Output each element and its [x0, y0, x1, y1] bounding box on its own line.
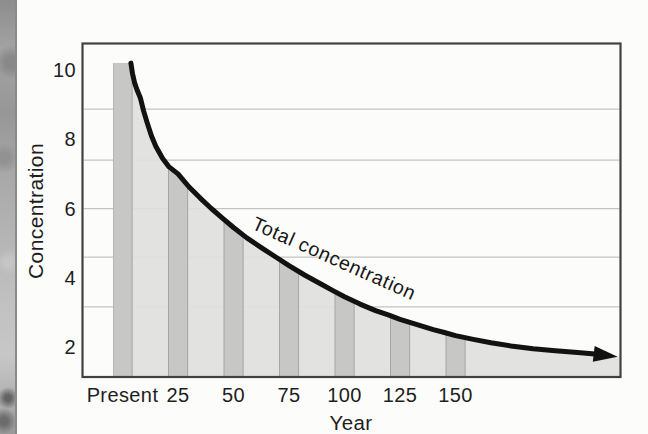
interval-bar — [280, 55, 299, 377]
interval-bar — [446, 55, 465, 377]
x-axis-title: Year — [329, 411, 372, 434]
y-tick-label: 8 — [64, 128, 76, 150]
y-tick-label: 6 — [64, 198, 76, 220]
x-tick-label: Present — [87, 384, 159, 406]
concentration-area-fill — [113, 63, 620, 377]
y-tick-label: 10 — [53, 59, 76, 81]
y-axis-title: Concentration — [24, 143, 48, 279]
scanned-book-page: 246810Present255075100125150 Concentrati… — [0, 0, 648, 434]
interval-bar — [169, 55, 188, 377]
x-tick-label: 100 — [327, 384, 362, 406]
x-tick-label: 125 — [383, 384, 418, 406]
x-tick-label: 50 — [222, 384, 245, 406]
x-tick-label: 150 — [438, 384, 473, 406]
interval-bar — [113, 55, 132, 377]
y-tick-label: 4 — [64, 267, 76, 289]
x-tick-label: 75 — [277, 384, 300, 406]
interval-bar — [391, 55, 410, 377]
y-tick-label: 2 — [64, 336, 76, 358]
interval-bar — [335, 55, 354, 377]
concentration-decay-figure: 246810Present255075100125150 Concentrati… — [0, 0, 648, 434]
interval-bar — [224, 55, 243, 377]
chart-canvas: 246810Present255075100125150 — [0, 0, 648, 434]
x-tick-label: 25 — [166, 384, 189, 406]
